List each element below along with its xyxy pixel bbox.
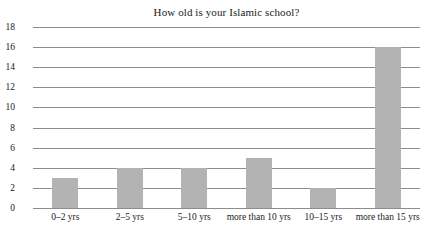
x-tick-label: 2–5 yrs — [98, 211, 163, 224]
x-tick-label: 10–15 yrs — [291, 211, 356, 224]
y-tick-label: 0 — [0, 204, 15, 214]
y-tick-label: 6 — [0, 144, 15, 154]
y-tick-label: 18 — [0, 23, 15, 33]
y-tick-label: 8 — [0, 124, 15, 134]
x-tick-label: 5–10 yrs — [162, 211, 227, 224]
plot-area — [33, 27, 420, 208]
y-tick-label: 2 — [0, 184, 15, 194]
bar-chart: How old is your Islamic school? 02468101… — [0, 0, 432, 251]
bar — [310, 188, 336, 208]
x-tick-label: 0–2 yrs — [33, 211, 98, 224]
y-tick-label: 12 — [0, 83, 15, 93]
bar — [117, 168, 143, 208]
y-tick-label: 16 — [0, 43, 15, 53]
chart-title: How old is your Islamic school? — [33, 6, 420, 19]
x-axis-line — [33, 208, 420, 209]
y-tick-label: 14 — [0, 63, 15, 73]
x-axis-category-labels: 0–2 yrs2–5 yrs5–10 yrsmore than 10 yrs10… — [33, 211, 420, 251]
bar — [52, 178, 78, 208]
y-tick-label: 10 — [0, 103, 15, 113]
bar — [181, 168, 207, 208]
bar — [375, 47, 401, 208]
y-tick-label: 4 — [0, 164, 15, 174]
bar — [246, 158, 272, 208]
x-tick-label: more than 15 yrs — [356, 211, 421, 224]
bar-series — [33, 27, 420, 208]
x-tick-label: more than 10 yrs — [227, 211, 292, 224]
